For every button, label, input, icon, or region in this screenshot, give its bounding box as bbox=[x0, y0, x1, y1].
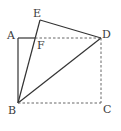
segment-BD bbox=[18, 38, 101, 103]
label-B: B bbox=[8, 104, 16, 117]
label-F: F bbox=[37, 39, 45, 52]
segment-ED bbox=[40, 20, 101, 38]
label-D: D bbox=[102, 28, 111, 41]
geometry-diagram: A B C D E F bbox=[0, 0, 121, 131]
label-E: E bbox=[33, 7, 41, 20]
label-C: C bbox=[103, 103, 111, 116]
label-A: A bbox=[6, 29, 16, 42]
diagram-canvas: A B C D E F bbox=[0, 0, 121, 131]
segment-BE bbox=[18, 20, 40, 103]
